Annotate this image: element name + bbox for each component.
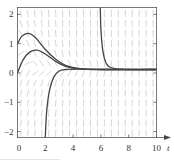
slope-segment	[21, 129, 22, 136]
slope-segment	[33, 80, 36, 87]
slope-segment	[82, 70, 84, 77]
slope-segment	[20, 90, 21, 97]
slope-segment	[47, 60, 51, 66]
slope-segment	[34, 30, 35, 37]
slope-segment	[39, 71, 45, 76]
slope-segment	[132, 70, 133, 77]
slope-segment	[69, 80, 70, 87]
slope-segment	[48, 30, 49, 37]
axis-ticks	[18, 14, 157, 137]
slope-segment	[69, 90, 70, 97]
slope-segment	[34, 50, 36, 57]
x-axis-label: t	[167, 143, 170, 153]
slope-segment	[111, 70, 112, 77]
slope-segment	[34, 120, 35, 127]
slope-segment	[111, 60, 112, 67]
slope-segment	[41, 80, 43, 87]
slope-segment	[34, 40, 36, 47]
slope-segment	[21, 110, 22, 117]
x-tick-label: 4	[71, 143, 76, 153]
y-tick-label: 2	[9, 9, 14, 19]
slope-segment	[48, 80, 50, 87]
slope-segment	[41, 90, 42, 97]
slope-segment	[28, 120, 29, 127]
slope-field	[18, 10, 154, 137]
solution-curves	[18, 6, 157, 138]
slope-segment	[35, 10, 36, 17]
solution-curve	[45, 69, 156, 137]
slope-segment	[62, 30, 63, 37]
slope-segment	[55, 80, 57, 87]
slope-segment	[41, 30, 42, 37]
slope-segment	[42, 129, 43, 136]
slope-segment	[35, 129, 36, 136]
slope-segment	[68, 70, 71, 76]
slope-segment	[48, 110, 49, 117]
slope-segment	[32, 61, 37, 66]
slope-segment	[20, 100, 21, 107]
x-tick-label: 0	[17, 143, 22, 153]
slope-segment	[118, 70, 119, 77]
slope-segment	[62, 100, 63, 107]
slope-segment	[34, 110, 35, 117]
slope-segment	[41, 100, 42, 107]
slope-segment	[55, 30, 56, 37]
slope-segment	[61, 70, 65, 76]
slope-segment	[26, 70, 29, 76]
slope-segment	[97, 60, 98, 67]
slope-segment	[76, 80, 77, 87]
slope-segment	[62, 50, 63, 57]
x-tick-label: 8	[126, 143, 131, 153]
slope-segment	[90, 70, 92, 77]
slope-segment	[49, 120, 50, 127]
slope-segment	[20, 20, 22, 27]
slope-segment	[42, 10, 43, 17]
x-tick-label: 2	[43, 143, 48, 153]
slope-segment	[48, 20, 49, 27]
slope-segment	[62, 80, 63, 87]
slope-segment	[55, 110, 56, 117]
slope-segment	[40, 60, 44, 66]
slope-segment	[46, 71, 51, 76]
x-axis-arrow-icon	[164, 135, 171, 140]
slope-segment	[27, 10, 28, 17]
slope-segment	[48, 40, 49, 47]
slope-segment	[55, 90, 56, 97]
slope-segment	[48, 100, 49, 107]
y-tick-label: 1	[9, 39, 14, 49]
slope-segment	[90, 80, 91, 87]
slope-segment	[90, 60, 91, 67]
slope-segment	[27, 40, 30, 47]
slope-segment	[20, 80, 22, 87]
y-tick-label: 0	[9, 68, 14, 78]
slope-segment	[34, 90, 36, 97]
solution-curve	[18, 33, 157, 69]
slope-segment	[20, 10, 22, 17]
slope-segment	[18, 51, 24, 55]
slope-segment	[34, 20, 35, 27]
y-tick-label: −1	[4, 97, 14, 107]
slope-segment	[42, 120, 43, 127]
slope-segment	[27, 80, 29, 87]
slope-segment	[125, 70, 126, 77]
slope-segment	[104, 70, 105, 77]
slope-segment	[69, 50, 70, 57]
divider	[0, 159, 60, 160]
slope-segment	[32, 71, 38, 75]
slope-segment	[68, 60, 70, 67]
slope-segment	[55, 40, 56, 47]
slope-segment	[25, 62, 31, 65]
slope-segment	[69, 40, 70, 47]
solution-curve	[100, 6, 156, 70]
slope-segment	[41, 20, 42, 27]
slope-segment	[34, 100, 35, 107]
slope-segment	[75, 70, 78, 77]
slope-segment	[62, 90, 63, 97]
slope-segment	[83, 50, 84, 57]
slope-segment	[83, 60, 85, 67]
x-tick-label: 6	[99, 143, 104, 153]
slope-segment	[28, 129, 29, 136]
slope-segment	[27, 20, 28, 27]
slope-segment	[41, 110, 42, 117]
slope-segment	[55, 50, 56, 57]
